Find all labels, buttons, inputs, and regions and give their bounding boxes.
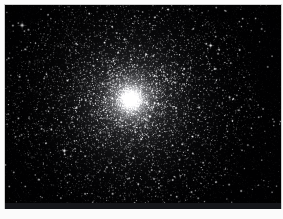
film-bottom-strip [5, 203, 281, 209]
astrophoto-screenshot [0, 0, 283, 219]
photo-frame [5, 5, 281, 208]
image-caption [0, 210, 283, 219]
sky-canvas [5, 5, 281, 208]
star-field-image [5, 5, 281, 208]
